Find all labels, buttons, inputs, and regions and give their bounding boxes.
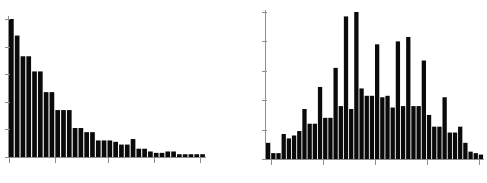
histogram-bar — [90, 132, 95, 157]
histogram-bar — [50, 92, 55, 157]
histogram-bar — [422, 61, 426, 159]
histogram-bar — [365, 96, 369, 159]
histogram-bar — [474, 153, 478, 159]
histogram-bar — [15, 36, 20, 157]
histogram-bar — [32, 71, 37, 157]
histogram-bar — [79, 128, 84, 157]
histogram-bar — [391, 108, 395, 159]
histogram-bar — [177, 154, 182, 157]
histogram-bar — [142, 149, 147, 157]
histogram-bar — [44, 92, 49, 157]
histogram-bar — [328, 118, 332, 159]
histogram-bar — [21, 56, 26, 157]
histogram-bar — [401, 106, 405, 159]
histogram-bar — [375, 44, 379, 159]
histogram-bar — [442, 97, 446, 159]
histogram-bar — [417, 106, 421, 159]
two-panel-histogram-figure — [0, 0, 487, 183]
histogram-bar — [437, 127, 441, 159]
histogram-bar — [370, 96, 374, 159]
histogram-bar — [354, 12, 358, 159]
histogram-bar — [171, 151, 176, 157]
histogram-bar — [313, 124, 317, 159]
histogram-bar — [119, 145, 124, 157]
histogram-bar — [323, 118, 327, 159]
histogram-bar — [266, 143, 270, 159]
histogram-bar — [84, 132, 89, 157]
histogram-bar — [297, 131, 301, 159]
histogram-bar — [194, 154, 199, 157]
histogram-bar — [165, 151, 170, 157]
histogram-bar — [113, 142, 118, 157]
histogram-bar — [148, 151, 153, 157]
histogram-bar — [282, 134, 286, 159]
histogram-bar — [333, 68, 337, 159]
histogram-bar — [108, 140, 113, 157]
histogram-bar — [276, 153, 280, 159]
histogram-bar — [427, 115, 431, 159]
left-histogram-bars — [9, 19, 205, 157]
histogram-bar — [125, 145, 130, 157]
histogram-bar — [359, 88, 363, 159]
histogram-bar — [189, 154, 194, 157]
histogram-bar — [55, 110, 60, 157]
histogram-bar — [271, 153, 275, 159]
histogram-bar — [61, 110, 66, 157]
histogram-bar — [318, 87, 322, 159]
histogram-bar — [302, 109, 306, 159]
histogram-bar — [183, 154, 188, 157]
right-histogram-bars — [266, 12, 483, 159]
histogram-bar — [380, 97, 384, 159]
histogram-bar — [102, 140, 107, 157]
left-histogram-panel — [0, 0, 244, 183]
histogram-bar — [463, 143, 467, 159]
histogram-bar — [200, 154, 205, 157]
histogram-bar — [453, 133, 457, 159]
histogram-bar — [468, 152, 472, 159]
histogram-bar — [396, 41, 400, 159]
right-histogram-svg — [244, 0, 487, 183]
left-histogram-x-ticks — [10, 158, 201, 164]
histogram-bar — [339, 106, 343, 159]
histogram-bar — [131, 139, 136, 157]
histogram-bar — [292, 135, 296, 159]
histogram-bar — [344, 16, 348, 159]
histogram-bar — [385, 96, 389, 159]
right-histogram-panel — [244, 0, 487, 183]
histogram-bar — [38, 71, 43, 157]
histogram-bar — [67, 110, 72, 157]
histogram-bar — [349, 109, 353, 159]
histogram-bar — [287, 138, 291, 159]
histogram-bar — [160, 153, 165, 157]
histogram-bar — [73, 128, 78, 157]
right-histogram-x-ticks — [272, 160, 480, 166]
histogram-bar — [9, 19, 14, 157]
histogram-bar — [96, 140, 101, 157]
histogram-bar — [432, 127, 436, 159]
histogram-bar — [458, 127, 462, 159]
histogram-bar — [479, 155, 483, 159]
histogram-bar — [154, 153, 159, 157]
histogram-bar — [406, 37, 410, 159]
left-histogram-svg — [0, 0, 244, 183]
histogram-bar — [26, 56, 31, 157]
histogram-bar — [411, 106, 415, 159]
histogram-bar — [448, 133, 452, 159]
histogram-bar — [308, 124, 312, 159]
histogram-bar — [136, 149, 141, 157]
